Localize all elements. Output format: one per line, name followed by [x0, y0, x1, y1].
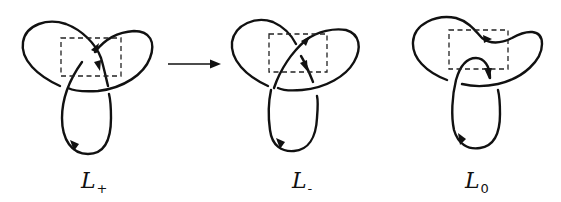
label-subscript: + [97, 181, 108, 196]
right-lobe-strand [68, 31, 152, 91]
label-l-plus: L+ [81, 170, 108, 192]
label-main: L [81, 168, 96, 193]
label-l-zero: L0 [465, 170, 489, 192]
crossing-region-box [61, 38, 121, 76]
upper-smoothed-strand [413, 17, 542, 86]
label-main: L [292, 168, 307, 193]
label-main: L [465, 168, 480, 193]
orientation-arrow-icon [94, 60, 101, 71]
bottom-loop-strand [269, 90, 318, 151]
knot-diagram-l-plus [23, 22, 153, 154]
right-lobe-strand [274, 29, 359, 90]
right-arrow-icon [168, 60, 221, 69]
label-subscript: - [308, 181, 313, 196]
knot-diagram-l-minus [232, 20, 359, 151]
orientation-arrow-icon [300, 60, 308, 72]
label-l-minus: L- [292, 170, 312, 192]
knot-diagram-l-zero [413, 17, 542, 148]
left-lobe-strand [232, 20, 296, 86]
label-subscript: 0 [481, 181, 489, 196]
crossing-region-box [269, 34, 327, 72]
